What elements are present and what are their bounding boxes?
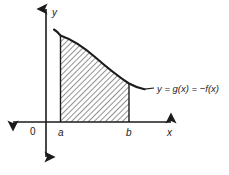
tick-label-b: b [126, 127, 132, 138]
y-axis-label: y [51, 7, 58, 18]
figure-canvas: y x 0 a b y = g(x) = −f(x) [0, 0, 229, 175]
label-leader-line [145, 88, 155, 89]
diagram-svg: y x 0 a b y = g(x) = −f(x) [0, 0, 229, 175]
curve-equation-label: y = g(x) = −f(x) [156, 83, 219, 94]
origin-label: 0 [30, 126, 36, 137]
x-axis-label: x [166, 127, 173, 138]
tick-label-a: a [58, 127, 64, 138]
shaded-region [61, 36, 130, 123]
